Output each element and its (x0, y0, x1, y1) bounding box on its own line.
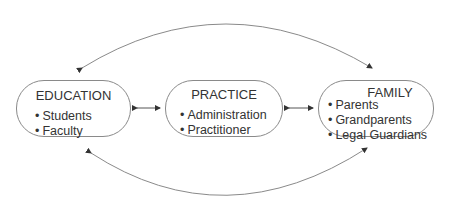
arc-top-arrow (82, 24, 372, 68)
education-items: Students Faculty (35, 109, 92, 139)
education-title: EDUCATION (17, 88, 130, 103)
education-item: Students (35, 109, 92, 124)
family-items: Parents Grandparents Legal Guardians (328, 98, 427, 143)
practice-title: PRACTICE (166, 87, 282, 102)
family-item: Grandparents (328, 113, 427, 128)
practice-node: PRACTICE Administration Practitioner (165, 80, 283, 137)
arc-bottom-arrow (91, 148, 367, 195)
practice-items: Administration Practitioner (180, 108, 267, 138)
family-node: FAMILY Parents Grandparents Legal Guardi… (318, 80, 434, 137)
practice-item: Administration (180, 108, 267, 123)
family-item: Legal Guardians (328, 128, 427, 143)
education-node: EDUCATION Students Faculty (16, 80, 131, 137)
family-item: Parents (328, 98, 427, 113)
practice-item: Practitioner (180, 123, 267, 138)
education-item: Faculty (35, 124, 92, 139)
